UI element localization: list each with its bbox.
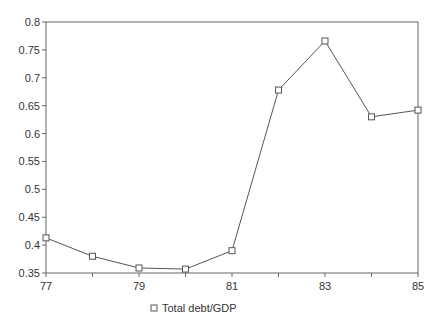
y-tick-label: 0.65	[19, 100, 40, 112]
y-tick-label: 0.7	[25, 72, 40, 84]
y-tick-label: 0.55	[19, 155, 40, 167]
x-tick-label: 77	[40, 280, 52, 292]
data-point-78	[90, 253, 96, 259]
series-line	[46, 41, 418, 269]
legend-label: Total debt/GDP	[162, 302, 237, 314]
legend: Total debt/GDP	[151, 302, 237, 314]
y-tick-label: 0.5	[25, 183, 40, 195]
data-point-77	[43, 235, 49, 241]
plot-frame	[46, 22, 418, 273]
data-point-79	[136, 265, 142, 271]
y-axis: 0.350.40.450.50.550.60.650.70.750.8	[19, 16, 46, 279]
series-total-debt-gdp	[43, 38, 421, 272]
y-tick-label: 0.35	[19, 267, 40, 279]
x-tick-label: 81	[226, 280, 238, 292]
data-point-81	[229, 248, 235, 254]
legend-marker-square-icon	[151, 305, 157, 311]
x-tick-label: 85	[412, 280, 424, 292]
data-point-84	[369, 114, 375, 120]
line-chart: 0.350.40.450.50.550.60.650.70.750.8 7779…	[0, 0, 431, 330]
x-axis: 7779818385	[40, 273, 424, 292]
y-tick-label: 0.75	[19, 44, 40, 56]
y-tick-label: 0.6	[25, 128, 40, 140]
data-point-85	[415, 107, 421, 113]
x-tick-label: 79	[133, 280, 145, 292]
data-point-83	[322, 38, 328, 44]
y-tick-label: 0.45	[19, 211, 40, 223]
y-tick-label: 0.8	[25, 16, 40, 28]
data-point-82	[276, 87, 282, 93]
data-point-80	[183, 266, 189, 272]
y-tick-label: 0.4	[25, 239, 40, 251]
plot-border	[46, 22, 418, 273]
x-tick-label: 83	[319, 280, 331, 292]
